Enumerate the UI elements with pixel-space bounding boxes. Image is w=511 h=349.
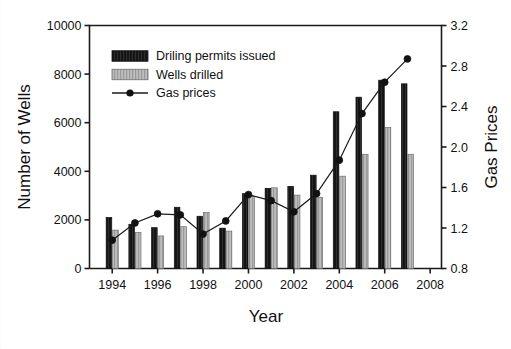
left-tick-label: 10000 <box>47 19 82 33</box>
bar-wells <box>181 227 187 269</box>
legend-label: Gas prices <box>156 86 216 100</box>
gas-price-marker <box>313 190 320 197</box>
gas-price-marker <box>177 211 184 218</box>
bar-permits <box>242 194 248 269</box>
bar-permits <box>152 228 158 269</box>
legend-swatch-wells <box>112 69 148 80</box>
bottom-tick-label: 2002 <box>280 278 308 292</box>
bottom-tick-label: 2004 <box>325 278 353 292</box>
bar-wells <box>362 154 368 268</box>
gas-price-marker <box>381 79 388 86</box>
gas-price-marker <box>245 191 252 198</box>
gas-price-marker <box>222 218 229 225</box>
legend-label: Wells drilled <box>156 68 223 82</box>
chart-svg: 0200040006000800010000 0.81.21.62.02.42.… <box>0 0 511 349</box>
bar-permits <box>401 84 407 269</box>
gas-price-marker <box>154 210 161 217</box>
right-tick-label: 2.8 <box>451 60 468 74</box>
legend-label: Driling permits issued <box>156 49 276 63</box>
bar-permits <box>379 80 385 268</box>
right-tick-label: 2.0 <box>451 141 468 155</box>
bar-permits <box>356 97 362 268</box>
bar-wells <box>135 233 141 269</box>
gas-price-marker <box>132 220 139 227</box>
legend-swatch-permits <box>112 51 148 62</box>
chart-figure: 0200040006000800010000 0.81.21.62.02.42.… <box>0 0 511 349</box>
gas-price-marker <box>359 110 366 117</box>
left-axis-title: Number of Wells <box>15 84 34 209</box>
bar-permits <box>129 224 135 268</box>
left-tick-label: 4000 <box>54 165 82 179</box>
bar-wells <box>340 176 346 268</box>
left-tick-label: 8000 <box>54 68 82 82</box>
gas-price-marker <box>200 231 207 238</box>
bottom-tick-label: 2000 <box>235 278 263 292</box>
left-tick-label: 6000 <box>54 116 82 130</box>
left-tick-label: 2000 <box>54 213 82 227</box>
bottom-tick-label: 1996 <box>144 278 172 292</box>
right-tick-label: 0.8 <box>451 262 468 276</box>
legend-swatch-marker <box>126 89 133 96</box>
left-tick-label: 0 <box>75 262 82 276</box>
right-tick-label: 2.4 <box>451 100 468 114</box>
bar-wells <box>385 128 391 269</box>
bar-permits <box>288 186 294 268</box>
gas-price-marker <box>268 197 275 204</box>
bottom-tick-label: 1998 <box>189 278 217 292</box>
right-tick-label: 1.6 <box>451 181 468 195</box>
bar-permits <box>311 175 317 268</box>
bottom-tick-label: 2006 <box>371 278 399 292</box>
bar-wells <box>408 154 414 268</box>
bar-wells <box>249 197 255 269</box>
bar-wells <box>158 236 164 269</box>
bottom-tick-label: 2008 <box>416 278 444 292</box>
bar-wells <box>203 213 209 269</box>
bar-permits <box>220 228 226 268</box>
gas-price-marker <box>404 56 411 63</box>
bar-permits <box>333 112 339 269</box>
gas-price-marker <box>336 157 343 164</box>
right-axis-title: Gas Prices <box>482 105 501 188</box>
right-tick-label: 3.2 <box>451 19 468 33</box>
gas-price-marker <box>109 237 116 244</box>
bottom-tick-label: 1994 <box>98 278 126 292</box>
bar-wells <box>317 197 323 268</box>
bar-permits <box>197 216 203 268</box>
bar-wells <box>294 195 300 268</box>
bottom-axis-title: Year <box>249 307 284 326</box>
bar-wells <box>226 231 232 268</box>
gas-price-marker <box>290 208 297 215</box>
right-tick-label: 1.2 <box>451 222 468 236</box>
